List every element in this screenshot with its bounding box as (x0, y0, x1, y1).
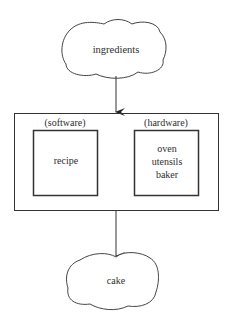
hardware-heading: (hardware) (131, 117, 201, 129)
hardware-item-utensils: utensils (135, 156, 199, 168)
software-heading: (software) (30, 117, 100, 129)
cake-label: cake (76, 275, 156, 287)
hardware-item-oven: oven (135, 143, 199, 155)
software-item-recipe: recipe (34, 155, 98, 167)
hardware-item-baker: baker (135, 169, 199, 181)
ingredients-label: ingredients (66, 44, 166, 56)
